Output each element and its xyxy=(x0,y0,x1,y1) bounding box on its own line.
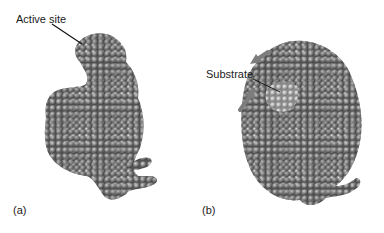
protein-model-a xyxy=(45,33,157,199)
panel-b-tag: (b) xyxy=(202,204,215,216)
substrate-label: Substrate xyxy=(206,68,253,80)
figure-canvas xyxy=(0,0,384,233)
active-site-leader-line xyxy=(52,24,82,44)
protein-model-b xyxy=(241,41,361,205)
active-site-label: Active site xyxy=(16,13,66,25)
panel-a-tag: (a) xyxy=(13,204,26,216)
